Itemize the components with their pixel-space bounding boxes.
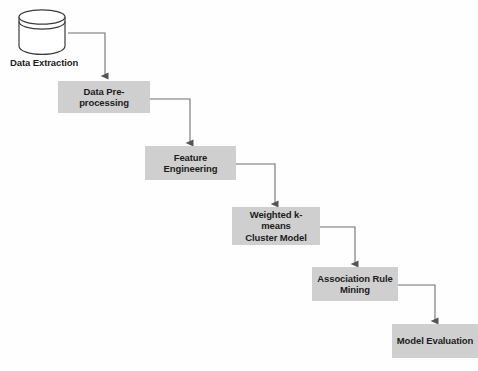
node-label: Feature Engineering: [148, 152, 233, 175]
node-label: Association Rule Mining: [317, 273, 392, 296]
node-model-evaluation[interactable]: Model Evaluation: [392, 324, 478, 358]
data-extraction-label: Data Extraction: [10, 57, 78, 68]
node-label: Data Pre-processing: [61, 86, 147, 109]
edge-cluster-model-to-association-rule-mining: [320, 227, 355, 264]
node-feature-engineering[interactable]: Feature Engineering: [145, 146, 236, 180]
edge-association-rule-mining-to-model-evaluation: [398, 285, 435, 321]
flowchart-canvas: Data Extraction Data Pre-processing Feat…: [0, 0, 478, 371]
edge-preprocessing-to-feature-engineering: [150, 99, 190, 143]
node-weighted-k-means-cluster-model[interactable]: Weighted k-means Cluster Model: [232, 207, 320, 245]
node-data-pre-processing[interactable]: Data Pre-processing: [58, 81, 150, 113]
edge-extraction-to-preprocessing: [68, 33, 105, 76]
node-label: Model Evaluation: [397, 335, 474, 347]
edge-feature-engineering-to-cluster-model: [236, 164, 275, 204]
node-label: Weighted k-means Cluster Model: [235, 209, 317, 244]
database-cylinder-icon: [16, 8, 72, 56]
node-association-rule-mining[interactable]: Association Rule Mining: [312, 267, 398, 301]
